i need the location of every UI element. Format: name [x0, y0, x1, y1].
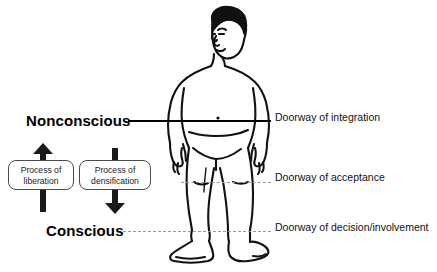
- arrow-down-icon: [105, 203, 125, 214]
- doorway-label-decision-involvement: Doorway of decision/involvement: [275, 221, 429, 233]
- process-liberation-line2: liberation: [12, 176, 70, 187]
- process-box-densification: Process of densification: [79, 160, 151, 190]
- doorway-decision-line: [118, 231, 271, 232]
- diagram-canvas: Nonconscious Conscious Doorway of integr…: [0, 0, 437, 272]
- doorway-label-integration: Doorway of integration: [275, 111, 380, 123]
- doorway-acceptance-line: [181, 182, 271, 183]
- level-label-nonconscious: Nonconscious: [26, 112, 131, 129]
- doorway-label-acceptance: Doorway of acceptance: [275, 171, 385, 183]
- level-label-conscious: Conscious: [46, 222, 124, 239]
- process-box-liberation: Process of liberation: [8, 160, 74, 190]
- process-liberation-line1: Process of: [12, 165, 70, 176]
- process-densification-line1: Process of: [83, 165, 147, 176]
- process-densification-line2: densification: [83, 176, 147, 187]
- doorway-integration-line: [128, 120, 271, 122]
